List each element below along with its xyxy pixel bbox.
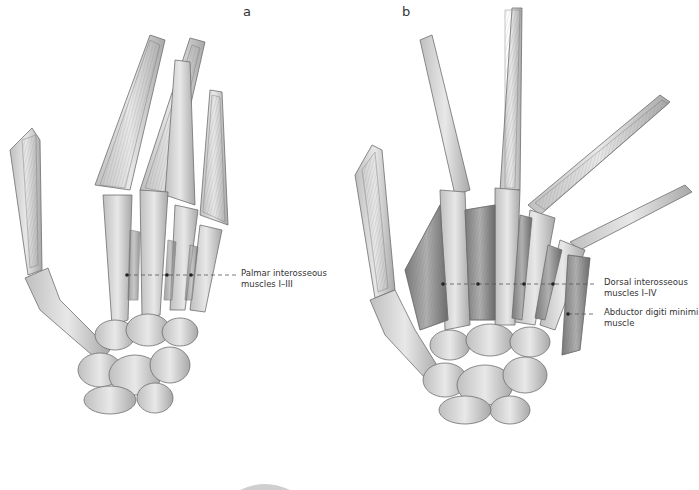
marker-dot <box>522 282 526 286</box>
carpals-b <box>423 324 550 424</box>
thumb-a <box>10 128 110 362</box>
marker-dot <box>551 282 555 286</box>
marker-dot <box>441 282 445 286</box>
label-palmar-interosseous: Palmar interosseous muscles I–III <box>241 268 327 289</box>
hand-palmar-view <box>10 35 228 414</box>
label-line: Abductor digiti minimi <box>604 307 698 318</box>
marker-dot <box>165 273 169 277</box>
label-line: Dorsal interosseous <box>604 277 688 288</box>
marker-dot <box>189 273 193 277</box>
label-line: muscles I–IV <box>604 288 688 299</box>
hand-illustrations <box>0 0 699 490</box>
marker-dot <box>476 282 480 286</box>
label-line: Palmar interosseous <box>241 268 327 279</box>
partial-next-figure <box>240 484 290 490</box>
hand-dorsal-view <box>355 8 692 424</box>
carpals-a <box>78 314 198 414</box>
label-line: muscles I–III <box>241 279 327 290</box>
label-line: muscle <box>604 318 698 329</box>
label-dorsal-interosseous: Dorsal interosseous muscles I–IV <box>604 277 688 298</box>
marker-dot <box>125 273 129 277</box>
marker-dot <box>566 312 570 316</box>
label-abductor-digiti-minimi: Abductor digiti minimi muscle <box>604 307 698 328</box>
